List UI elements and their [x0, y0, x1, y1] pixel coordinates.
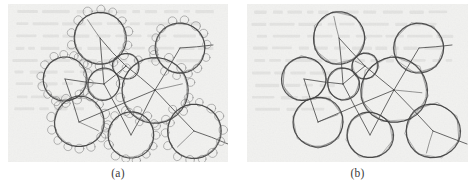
panel-b-drawing: [247, 4, 468, 162]
panel-a-caption: (a): [8, 166, 228, 180]
panel-b-caption: (b): [247, 166, 468, 180]
panel-a-drawing: [8, 4, 228, 162]
figure-root: (a) (b): [0, 0, 476, 193]
